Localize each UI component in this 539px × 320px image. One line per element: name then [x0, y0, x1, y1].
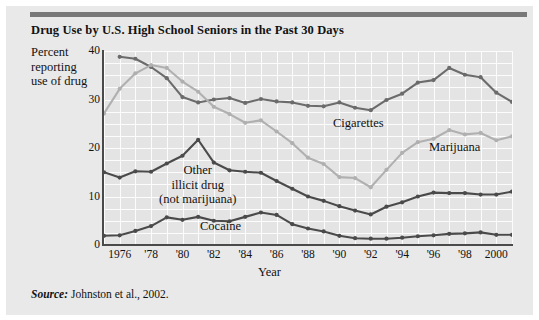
data-point — [384, 98, 388, 102]
x-tick-label: '88 — [301, 248, 315, 260]
data-point — [196, 138, 200, 142]
data-point — [212, 97, 216, 101]
data-point — [463, 191, 467, 195]
data-point — [243, 215, 247, 219]
data-point — [479, 230, 483, 234]
data-point — [165, 66, 169, 70]
x-axis-ticks: 1976'78'80'82'84'86'88'90'92'94'96'98200… — [0, 248, 539, 264]
data-point — [180, 79, 184, 83]
data-point — [227, 96, 231, 100]
data-point — [180, 154, 184, 158]
data-point — [337, 204, 341, 208]
data-point — [384, 205, 388, 209]
data-point — [494, 192, 498, 196]
data-point — [275, 213, 279, 217]
data-point — [384, 237, 388, 241]
data-point — [118, 87, 122, 91]
y-tick-label: 20 — [74, 141, 100, 153]
x-axis-label: Year — [0, 265, 539, 280]
data-point — [133, 57, 137, 61]
data-point — [149, 170, 153, 174]
data-point — [180, 95, 184, 99]
x-tick-label: '94 — [395, 248, 409, 260]
data-point — [259, 171, 263, 175]
data-point — [369, 237, 373, 241]
data-point — [322, 199, 326, 203]
data-point — [479, 131, 483, 135]
series-cocaine — [104, 210, 512, 240]
x-tick-label: '80 — [176, 248, 190, 260]
data-point — [259, 118, 263, 122]
x-tick-label: 2000 — [485, 248, 508, 260]
data-point — [306, 226, 310, 230]
series-label-marijuana: Marijuana — [429, 140, 480, 155]
y-tick-label: 40 — [74, 44, 100, 56]
data-point — [463, 132, 467, 136]
data-point — [180, 218, 184, 222]
y-tick-label: 30 — [74, 93, 100, 105]
data-point — [306, 104, 310, 108]
data-point — [243, 101, 247, 105]
data-point — [275, 179, 279, 183]
data-point — [463, 231, 467, 235]
data-point — [353, 176, 357, 180]
x-tick-label: '82 — [207, 248, 221, 260]
data-point — [165, 76, 169, 80]
gridline-vertical — [512, 51, 513, 245]
data-point — [337, 234, 341, 238]
source-word: Source: — [31, 288, 68, 300]
data-point — [369, 185, 373, 189]
data-point — [510, 190, 512, 194]
data-point — [431, 191, 435, 195]
data-point — [384, 168, 388, 172]
data-point — [243, 170, 247, 174]
data-point — [416, 80, 420, 84]
data-point — [149, 224, 153, 228]
data-point — [290, 141, 294, 145]
data-point — [494, 233, 498, 237]
data-point — [290, 222, 294, 226]
data-point — [416, 140, 420, 144]
data-point — [369, 108, 373, 112]
data-point — [479, 192, 483, 196]
y-tick-label: 10 — [74, 190, 100, 202]
data-point — [337, 100, 341, 104]
data-point — [337, 175, 341, 179]
series-label-other-illicit: Other illicit drug (not marijuana) — [159, 163, 236, 207]
data-point — [322, 229, 326, 233]
data-point — [149, 63, 153, 67]
data-point — [353, 106, 357, 110]
chart-figure: Drug Use by U.S. High School Seniors in … — [0, 0, 539, 320]
data-point — [259, 210, 263, 214]
data-point — [400, 236, 404, 240]
data-point — [196, 90, 200, 94]
data-point — [165, 215, 169, 219]
x-tick-label: '90 — [333, 248, 347, 260]
data-point — [227, 112, 231, 116]
data-point — [369, 212, 373, 216]
data-point — [447, 191, 451, 195]
data-point — [133, 71, 137, 75]
data-point — [431, 233, 435, 237]
x-tick-label: '86 — [270, 248, 284, 260]
data-point — [431, 78, 435, 82]
source-text: Johnston et al., 2002. — [68, 288, 169, 300]
data-point — [479, 75, 483, 79]
data-point — [416, 194, 420, 198]
x-tick-label: '84 — [238, 248, 252, 260]
data-point — [447, 66, 451, 70]
data-point — [306, 156, 310, 160]
series-label-cocaine: Cocaine — [200, 219, 241, 234]
x-tick-label: '98 — [458, 248, 472, 260]
data-point — [133, 169, 137, 173]
x-tick-label: '96 — [427, 248, 441, 260]
data-point — [212, 105, 216, 109]
source-note: Source: Johnston et al., 2002. — [31, 288, 169, 300]
x-tick-label: '92 — [364, 248, 378, 260]
data-point — [118, 175, 122, 179]
data-point — [510, 233, 512, 237]
series-label-other-line1: Other — [159, 163, 236, 178]
data-point — [243, 121, 247, 125]
data-point — [353, 208, 357, 212]
data-point — [447, 232, 451, 236]
